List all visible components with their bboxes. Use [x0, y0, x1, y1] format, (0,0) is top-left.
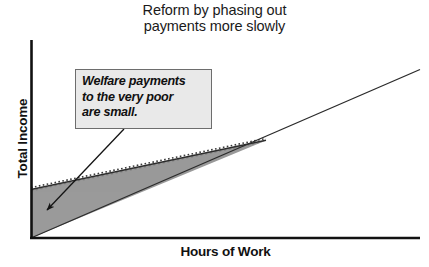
x-axis-label: Hours of Work	[31, 244, 420, 259]
y-axis-label: Total Income	[15, 74, 30, 204]
chart-canvas	[0, 0, 429, 267]
annotation-callout-text: Welfare payments to the very poor are sm…	[82, 74, 211, 121]
chart-title: Reform by phasing out payments more slow…	[0, 2, 429, 34]
chart-title-line-1: Reform by phasing out	[0, 2, 429, 18]
chart-figure: Reform by phasing out payments more slow…	[0, 0, 429, 267]
chart-title-line-2: payments more slowly	[0, 18, 429, 34]
annotation-callout-box: Welfare payments to the very poor are sm…	[75, 69, 212, 129]
